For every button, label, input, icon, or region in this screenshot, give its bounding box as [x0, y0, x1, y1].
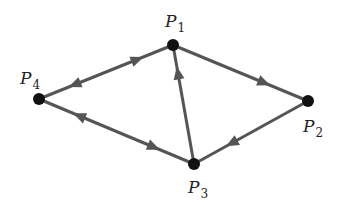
label-p1: P1	[164, 11, 185, 35]
edge-p1-p2	[173, 45, 308, 101]
node-p1	[167, 39, 179, 51]
label-p4: P4	[19, 68, 40, 92]
nodes-group	[33, 39, 314, 170]
edge-p2-p3	[194, 101, 308, 164]
directed-graph-diagram: P1P2P3P4	[0, 0, 341, 211]
edges-group	[39, 45, 308, 164]
arrowhead-to-p4-icon	[68, 77, 82, 87]
edge-p3-p1	[173, 45, 194, 164]
label-p2: P2	[302, 116, 323, 140]
node-p2	[302, 95, 314, 107]
arrowhead-to-p2-icon	[256, 75, 270, 85]
label-p3: P3	[187, 177, 208, 201]
edge-p4-p1	[39, 45, 173, 99]
arrowhead-to-p1-icon	[129, 57, 143, 67]
node-p3	[188, 158, 200, 170]
edge-p4-p3	[39, 99, 194, 164]
node-p4	[33, 93, 45, 105]
arrowhead-to-p1-icon	[174, 66, 185, 80]
